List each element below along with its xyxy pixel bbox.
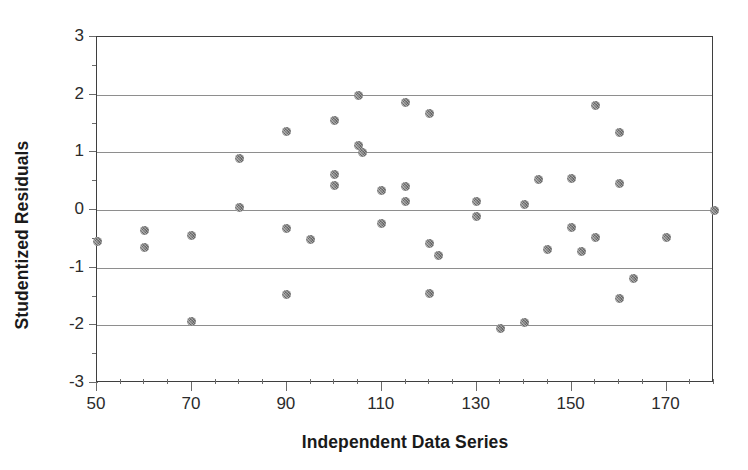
data-point [615,179,624,188]
data-point [401,197,410,206]
x-tick-minor [120,379,121,384]
y-tick-label--3: -3 [50,372,84,392]
x-tick-minor [713,379,714,384]
x-tick-minor [594,379,595,384]
scatter-plot-figure: Studentized Residuals -3-2-10123 5070901… [0,0,748,470]
y-tick-label--2: -2 [50,314,84,334]
x-tick-minor [262,379,263,384]
data-point [534,175,543,184]
data-point [472,212,481,221]
y-axis-title-text: Studentized Residuals [12,141,33,330]
x-tick-minor [452,379,453,384]
data-point [282,224,291,233]
x-axis-title: Independent Data Series [96,432,714,453]
x-tick-label-130: 130 [462,394,490,414]
data-point [520,318,529,327]
data-point [615,128,624,137]
data-point [401,182,410,191]
data-point [591,101,600,110]
x-tick-label-170: 170 [651,394,679,414]
x-tick-minor [143,379,144,384]
data-point [235,203,244,212]
x-tick-50 [96,382,97,391]
data-point [567,223,576,232]
x-tick-minor [618,379,619,384]
data-point [472,197,481,206]
x-tick-label-50: 50 [87,394,106,414]
x-tick-minor [499,379,500,384]
y-tick-label-0: 0 [50,199,84,219]
data-point [330,116,339,125]
x-tick-label-110: 110 [367,394,394,414]
plot-area [96,36,713,382]
x-tick-110 [381,382,382,391]
x-tick-minor [333,379,334,384]
gridline-y-0 [97,210,712,211]
x-tick-minor [642,379,643,384]
data-point [577,247,586,256]
x-tick-minor [215,379,216,384]
data-point [629,274,638,283]
y-tick-label--1: -1 [50,257,84,277]
x-tick-90 [286,382,287,391]
data-point [496,324,505,333]
data-point [520,200,529,209]
data-point [434,251,443,260]
x-tick-label-150: 150 [556,394,584,414]
x-tick-70 [191,382,192,391]
x-tick-minor [689,379,690,384]
data-point [662,233,671,242]
data-point [282,127,291,136]
data-point [425,109,434,118]
data-point [710,206,719,215]
x-tick-minor [547,379,548,384]
data-point [615,294,624,303]
gridline-y--1 [97,268,712,269]
data-point [567,174,576,183]
data-point [187,231,196,240]
x-tick-170 [666,382,667,391]
x-tick-150 [571,382,572,391]
x-tick-minor [405,379,406,384]
data-point [354,91,363,100]
data-point [306,235,315,244]
x-tick-minor [357,379,358,384]
data-point [140,243,149,252]
data-point [401,98,410,107]
data-point [282,290,291,299]
data-point [591,233,600,242]
x-tick-minor [428,379,429,384]
data-point [377,186,386,195]
data-point [330,181,339,190]
data-point [235,154,244,163]
x-tick-minor [523,379,524,384]
gridline-y-2 [97,95,712,96]
x-tick-minor [238,379,239,384]
x-tick-label-70: 70 [181,394,200,414]
data-point [330,170,339,179]
x-tick-label-90: 90 [276,394,295,414]
y-tick-label-2: 2 [50,84,84,104]
data-point [140,226,149,235]
data-point [93,237,102,246]
data-point [377,219,386,228]
x-tick-minor [167,379,168,384]
x-tick-130 [476,382,477,391]
data-point [543,245,552,254]
gridline-y-1 [97,152,712,153]
data-point [358,148,367,157]
x-tick-minor [310,379,311,384]
y-axis-title: Studentized Residuals [42,0,82,470]
y-tick-label-3: 3 [50,26,84,46]
y-tick-label-1: 1 [50,141,84,161]
data-point [425,239,434,248]
data-point [425,289,434,298]
